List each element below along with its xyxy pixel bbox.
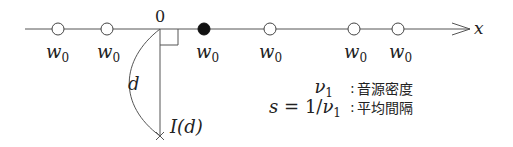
x-axis-label: x [474,18,484,38]
source-label: w0 [344,41,367,65]
distance-label: d [128,73,140,94]
filled-circle-icon [198,23,210,35]
right-angle-marker [160,29,178,45]
open-circle-icon [348,23,360,35]
source-label: w0 [46,41,69,65]
legend-spacing: s = 1/ν1 : 平均間隔 [269,96,413,120]
observer-label: I(d) [169,116,203,137]
open-circle-icon [52,23,64,35]
legend-description: 音源密度 [357,81,413,97]
source-density-diagram: x 0 d I(d) w0 w0 w0 w0 w0 w0 ν1 : 音源密度 [0,0,513,147]
legend-description: 平均間隔 [357,100,413,116]
open-circle-icon [392,23,404,35]
source-label: w0 [196,41,219,65]
open-circle-icon [264,23,276,35]
source-label: w0 [97,41,120,65]
origin-label: 0 [155,7,165,26]
legend-separator: : [350,99,355,115]
legend-formula: s = 1/ν1 [269,96,341,120]
source-label: w0 [259,41,282,65]
source-label: w0 [389,41,412,65]
legend-separator: : [350,80,355,96]
open-circle-icon [101,23,113,35]
